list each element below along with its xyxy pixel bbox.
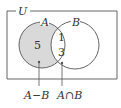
- a-only-value: 5: [34, 39, 41, 52]
- venn-diagram: U A B 5 1 3 A−B A∩B: [0, 0, 121, 108]
- universe-label: U: [18, 5, 28, 18]
- a-minus-b-caption: A−B: [23, 89, 49, 102]
- set-a-label: A: [40, 16, 49, 29]
- a-intersect-b-caption: A∩B: [56, 89, 82, 102]
- set-b-label: B: [71, 16, 80, 29]
- intersection-value-2: 3: [58, 46, 65, 59]
- intersection-value-1: 1: [58, 31, 65, 44]
